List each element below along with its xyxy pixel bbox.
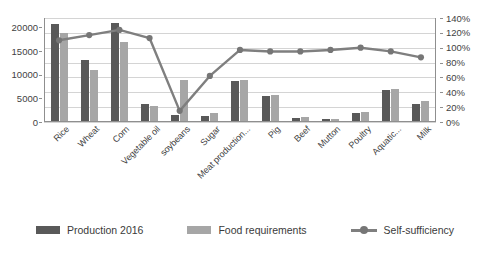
y-axis-left-tick-label: 15000 <box>12 46 38 57</box>
self-sufficiency-line-layer: Rice — Self-sufficiency: 110%Wheat — Sel… <box>44 18 436 122</box>
self-sufficiency-marker[interactable]: Vegetable oil — Self-sufficiency: 113% <box>146 35 152 41</box>
y-axis-right-tickmark <box>440 33 443 34</box>
x-axis-label: Poultry <box>346 124 372 150</box>
x-axis-label: Aquatic... <box>370 124 403 157</box>
self-sufficiency-marker[interactable]: soybeans — Self-sufficiency: 15% <box>177 108 183 114</box>
legend-swatch-requirement-icon <box>187 226 211 234</box>
y-axis-left-tickmark <box>39 122 42 123</box>
y-axis-right-tickmark <box>440 107 443 108</box>
x-axis-category-labels: RiceWheatCornVegetable oilsoybeansSugarM… <box>44 124 436 204</box>
y-axis-left-tickmark <box>39 27 42 28</box>
x-axis-label: Sugar <box>198 124 222 148</box>
x-axis-label: Mutton <box>316 124 342 150</box>
y-axis-left-tickmark <box>39 51 42 52</box>
legend-item[interactable]: Food requirements <box>187 224 306 236</box>
y-axis-left-tick-label: 20000 <box>12 22 38 33</box>
y-axis-left-tick-label: 5000 <box>17 93 38 104</box>
self-sufficiency-marker[interactable]: Poultry — Self-sufficiency: 100% <box>358 45 364 51</box>
y-axis-right-tickmark <box>440 63 443 64</box>
self-sufficiency-marker[interactable]: Milk — Self-sufficiency: 87% <box>418 54 424 60</box>
legend-label: Food requirements <box>218 224 306 236</box>
y-axis-right: 0%20%40%60%80%100%120%140% <box>440 18 488 122</box>
x-axis-label: soybeans <box>158 124 192 158</box>
x-axis-label: Pig <box>266 124 282 140</box>
y-axis-right-tickmark <box>440 48 443 49</box>
self-sufficiency-marker[interactable]: Pig — Self-sufficiency: 95% <box>267 48 273 54</box>
y-axis-left-tick-label: 0 <box>33 117 38 128</box>
legend-item[interactable]: Self-sufficiency <box>351 224 454 236</box>
legend-item[interactable]: Production 2016 <box>36 224 143 236</box>
legend-swatch-production-icon <box>36 226 60 234</box>
self-sufficiency-marker[interactable]: Rice — Self-sufficiency: 110% <box>56 37 62 43</box>
self-sufficiency-marker[interactable]: Sugar — Self-sufficiency: 62% <box>207 73 213 79</box>
y-axis-right-tick-label: 20% <box>446 102 465 113</box>
x-axis-label: Corn <box>111 124 132 145</box>
self-sufficiency-marker[interactable]: Aquatic... — Self-sufficiency: 95% <box>388 48 394 54</box>
legend-label: Production 2016 <box>67 224 143 236</box>
x-axis-label: Milk <box>415 124 433 142</box>
self-sufficiency-marker[interactable]: Corn — Self-sufficiency: 124% <box>116 27 122 33</box>
legend-line-marker-icon <box>351 226 377 235</box>
y-axis-right-tickmark <box>440 18 443 19</box>
plot-area: Rice — Self-sufficiency: 110%Wheat — Sel… <box>44 18 436 122</box>
x-axis-label: Meat production... <box>195 124 252 181</box>
y-axis-left-tickmark <box>39 98 42 99</box>
y-axis-left-tickmark <box>39 75 42 76</box>
self-sufficiency-marker[interactable]: Mutton — Self-sufficiency: 97% <box>327 47 333 53</box>
x-axis-label: Beef <box>292 124 312 144</box>
y-axis-left-tick-label: 10000 <box>12 69 38 80</box>
y-axis-right-tickmark <box>440 77 443 78</box>
chart-legend: Production 2016Food requirementsSelf-suf… <box>0 218 490 242</box>
y-axis-right-tickmark <box>440 92 443 93</box>
x-axis-label: Wheat <box>76 124 101 149</box>
y-axis-right-tick-label: 60% <box>446 72 465 83</box>
self-sufficiency-marker[interactable]: Wheat — Self-sufficiency: 117% <box>86 32 92 38</box>
y-axis-right-tick-label: 120% <box>446 27 470 38</box>
y-axis-right-tickmark <box>440 122 443 123</box>
y-axis-right-tick-label: 140% <box>446 13 470 24</box>
y-axis-right-tick-label: 100% <box>446 42 470 53</box>
self-sufficiency-line <box>59 30 421 111</box>
self-sufficiency-marker[interactable]: Beef — Self-sufficiency: 95% <box>297 48 303 54</box>
x-axis-label: Rice <box>52 124 72 144</box>
gridline <box>44 122 436 123</box>
legend-label: Self-sufficiency <box>384 224 454 236</box>
self-sufficiency-marker[interactable]: Meat production... — Self-sufficiency: 9… <box>237 47 243 53</box>
y-axis-left: 05000100001500020000 <box>0 18 42 122</box>
y-axis-right-tick-label: 80% <box>446 57 465 68</box>
chart-root: 05000100001500020000 Rice — Self-suffici… <box>0 0 490 256</box>
y-axis-right-tick-label: 40% <box>446 87 465 98</box>
y-axis-right-tick-label: 0% <box>446 117 460 128</box>
